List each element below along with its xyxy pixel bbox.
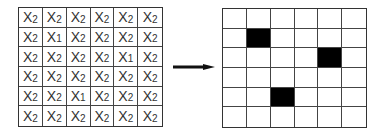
cell-subscript: 2 xyxy=(32,73,38,84)
cell-subscript: 2 xyxy=(128,92,134,103)
cell-subscript: 2 xyxy=(80,53,86,64)
cell-subscript: 2 xyxy=(32,92,38,103)
cell-subscript: 2 xyxy=(104,14,110,25)
empty-cell xyxy=(295,88,319,108)
cell-symbol: X xyxy=(94,68,103,84)
empty-cell xyxy=(271,29,295,49)
empty-cell xyxy=(271,48,295,68)
cell-subscript: 2 xyxy=(152,92,158,103)
cell-subscript: 1 xyxy=(56,33,62,44)
grid-cell: X2 xyxy=(138,8,162,28)
grid-cell: X2 xyxy=(19,47,43,67)
cell-subscript: 2 xyxy=(104,113,110,124)
cell-subscript: 2 xyxy=(56,113,62,124)
binary-mask-grid xyxy=(222,8,367,128)
cell-subscript: 2 xyxy=(104,92,110,103)
cell-subscript: 2 xyxy=(152,53,158,64)
cell-symbol: X xyxy=(23,9,32,25)
cell-subscript: 2 xyxy=(80,14,86,25)
empty-cell xyxy=(223,29,247,49)
grid-cell: X2 xyxy=(138,87,162,107)
cell-symbol: X xyxy=(143,49,152,65)
empty-cell xyxy=(342,48,366,68)
empty-cell xyxy=(342,107,366,127)
cell-symbol: X xyxy=(71,88,80,104)
label-grid: X2X2X2X2X2X2X2X1X2X2X2X2X2X2X2X2X1X2X2X2… xyxy=(18,7,163,127)
empty-cell xyxy=(295,48,319,68)
empty-cell xyxy=(223,107,247,127)
cell-symbol: X xyxy=(47,9,56,25)
cell-symbol: X xyxy=(94,29,103,45)
empty-cell xyxy=(295,29,319,49)
cell-symbol: X xyxy=(71,9,80,25)
grid-cell: X1 xyxy=(43,28,67,48)
cell-symbol: X xyxy=(143,88,152,104)
cell-symbol: X xyxy=(118,29,127,45)
cell-symbol: X xyxy=(118,108,127,124)
cell-symbol: X xyxy=(23,68,32,84)
grid-cell: X2 xyxy=(138,47,162,67)
cell-subscript: 2 xyxy=(128,113,134,124)
cell-symbol: X xyxy=(23,88,32,104)
empty-cell xyxy=(318,88,342,108)
cell-symbol: X xyxy=(94,108,103,124)
grid-cell: X2 xyxy=(19,8,43,28)
grid-cell: X2 xyxy=(43,47,67,67)
cell-subscript: 2 xyxy=(104,53,110,64)
cell-symbol: X xyxy=(143,108,152,124)
grid-cell: X2 xyxy=(91,47,115,67)
cell-subscript: 2 xyxy=(80,113,86,124)
grid-cell: X2 xyxy=(43,67,67,87)
cell-symbol: X xyxy=(94,9,103,25)
cell-subscript: 1 xyxy=(128,53,134,64)
empty-cell xyxy=(318,68,342,88)
empty-cell xyxy=(223,88,247,108)
cell-symbol: X xyxy=(143,29,152,45)
empty-cell xyxy=(247,48,271,68)
empty-cell xyxy=(223,68,247,88)
cell-subscript: 2 xyxy=(152,113,158,124)
empty-cell xyxy=(318,107,342,127)
cell-subscript: 2 xyxy=(56,92,62,103)
grid-cell: X2 xyxy=(67,67,91,87)
grid-cell: X1 xyxy=(67,87,91,107)
cell-subscript: 2 xyxy=(56,73,62,84)
grid-cell: X2 xyxy=(67,47,91,67)
grid-cell: X2 xyxy=(67,28,91,48)
grid-cell: X2 xyxy=(43,8,67,28)
empty-cell xyxy=(342,29,366,49)
cell-subscript: 2 xyxy=(32,33,38,44)
cell-subscript: 1 xyxy=(80,92,86,103)
cell-subscript: 2 xyxy=(56,14,62,25)
cell-symbol: X xyxy=(118,68,127,84)
filled-cell xyxy=(318,48,342,68)
cell-symbol: X xyxy=(47,29,56,45)
cell-symbol: X xyxy=(47,88,56,104)
filled-cell xyxy=(271,88,295,108)
empty-cell xyxy=(247,9,271,29)
cell-symbol: X xyxy=(94,49,103,65)
cell-symbol: X xyxy=(118,9,127,25)
cell-symbol: X xyxy=(71,68,80,84)
grid-cell: X2 xyxy=(114,8,138,28)
grid-cell: X2 xyxy=(138,67,162,87)
cell-symbol: X xyxy=(47,68,56,84)
grid-cell: X1 xyxy=(114,47,138,67)
cell-subscript: 2 xyxy=(128,33,134,44)
cell-subscript: 2 xyxy=(80,73,86,84)
empty-cell xyxy=(247,68,271,88)
cell-subscript: 2 xyxy=(32,14,38,25)
cell-symbol: X xyxy=(23,108,32,124)
empty-cell xyxy=(342,9,366,29)
grid-cell: X2 xyxy=(19,106,43,126)
right-arrow-icon xyxy=(173,64,215,70)
grid-cell: X2 xyxy=(19,87,43,107)
cell-symbol: X xyxy=(47,108,56,124)
cell-symbol: X xyxy=(143,68,152,84)
cell-subscript: 2 xyxy=(152,14,158,25)
cell-subscript: 2 xyxy=(104,33,110,44)
cell-symbol: X xyxy=(71,49,80,65)
empty-cell xyxy=(295,68,319,88)
cell-symbol: X xyxy=(47,49,56,65)
cell-subscript: 2 xyxy=(104,73,110,84)
